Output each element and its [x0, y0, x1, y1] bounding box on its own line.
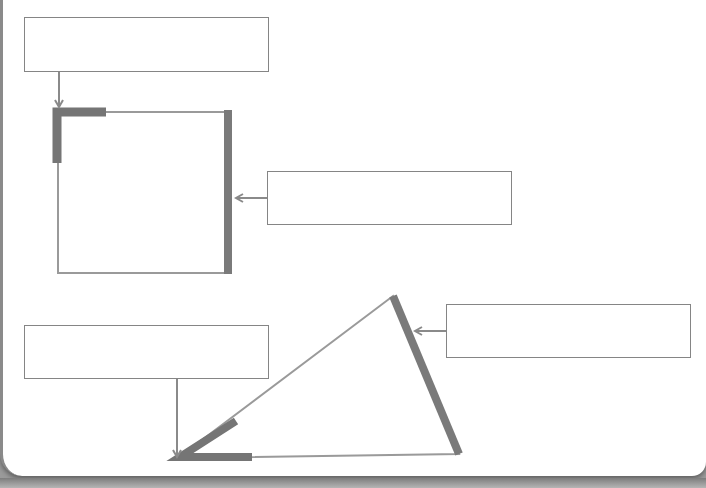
label-box-square-side[interactable]	[267, 171, 512, 225]
square-shape	[57, 110, 228, 274]
label-box-triangle-side[interactable]	[446, 304, 691, 358]
triangle-angle-highlight	[180, 421, 252, 457]
shapes-diagram	[0, 0, 706, 488]
label-box-corner[interactable]	[24, 17, 269, 72]
square-corner-highlight	[57, 112, 106, 163]
label-box-angle[interactable]	[24, 325, 269, 379]
